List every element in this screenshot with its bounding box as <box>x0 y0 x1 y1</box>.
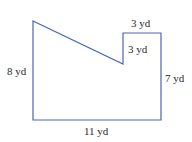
label-notch-side: 3 yd <box>128 43 148 55</box>
label-left-side: 8 yd <box>7 65 27 77</box>
label-notch-top: 3 yd <box>131 17 151 29</box>
label-bottom-side: 11 yd <box>84 125 109 137</box>
composite-shape-diagram: 8 yd 11 yd 7 yd 3 yd 3 yd <box>0 0 192 142</box>
label-right-side: 7 yd <box>165 72 185 84</box>
shape-outline <box>33 21 161 120</box>
